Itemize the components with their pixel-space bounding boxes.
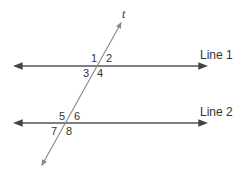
angle-8-label: 8 <box>66 126 72 137</box>
angle-7-label: 7 <box>51 126 57 137</box>
transversal-label: t <box>122 8 125 20</box>
angle-5-label: 5 <box>59 111 65 122</box>
line-1-label: Line 1 <box>200 49 233 61</box>
transversal-t <box>42 23 121 165</box>
angle-4-label: 4 <box>97 68 103 79</box>
angle-1-label: 1 <box>91 53 97 64</box>
diagram-canvas <box>0 0 248 174</box>
angle-3-label: 3 <box>83 68 89 79</box>
angle-2-label: 2 <box>106 53 112 64</box>
angle-6-label: 6 <box>74 111 80 122</box>
line-2-label: Line 2 <box>200 106 233 118</box>
